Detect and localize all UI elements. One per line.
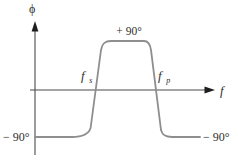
plus-90-label: + 90° — [116, 25, 142, 37]
fp-label: f p — [158, 66, 170, 85]
phi-axis-label: ϕ — [29, 2, 35, 16]
y-axis-arrowhead — [32, 21, 39, 32]
phase-response-figure: ϕ f + 90° f s f p − 90° − 90° — [0, 0, 238, 163]
minus-90-right-label: − 90° — [203, 130, 230, 144]
f-axis-label: f — [220, 83, 226, 98]
minus-90-left-label: − 90° — [3, 130, 30, 144]
fs-label: f s — [81, 66, 92, 85]
figure-canvas: ϕ f + 90° f s f p − 90° − 90° — [0, 0, 238, 163]
phase-curve — [35, 41, 200, 137]
x-axis-arrowhead — [205, 87, 216, 94]
